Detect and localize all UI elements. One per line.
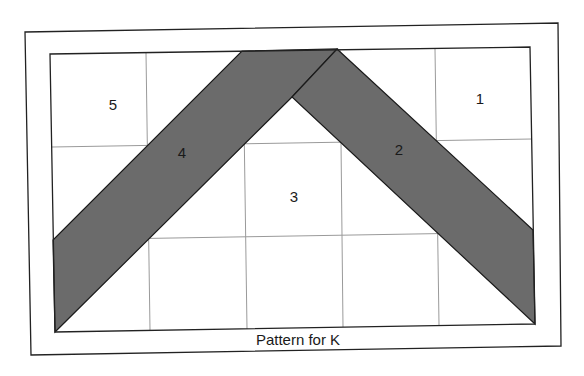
piece-label-3: 3	[290, 188, 298, 205]
piece-label-4: 4	[178, 144, 186, 161]
piece-label-1: 1	[476, 90, 484, 107]
pattern-diagram: 5 1 4 2 3 Pattern for K	[0, 0, 584, 376]
diagram-caption: Pattern for K	[256, 331, 340, 348]
piece-label-2: 2	[395, 141, 403, 158]
piece-label-5: 5	[109, 96, 117, 113]
